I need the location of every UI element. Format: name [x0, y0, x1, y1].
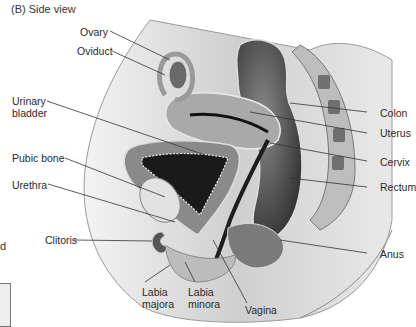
ovary	[169, 61, 187, 89]
label-urethra: Urethra	[12, 179, 47, 191]
label-uterus: Uterus	[380, 127, 411, 139]
label-labia-minora-line1: Labia	[188, 286, 214, 298]
label-colon: Colon	[380, 107, 407, 119]
label-urinary-bladder-line2: bladder	[12, 107, 47, 119]
label-vagina: Vagina	[245, 304, 277, 316]
label-labia-minora-line2: minora	[188, 298, 220, 310]
label-ovary: Ovary	[80, 26, 108, 38]
label-clitoris: Clitoris	[45, 234, 77, 246]
label-labia-majora-line2: majora	[142, 298, 174, 310]
panel-title: (B) Side view	[11, 3, 76, 15]
label-labia-majora-line1: Labia	[142, 286, 168, 298]
label-anus: Anus	[380, 248, 404, 260]
label-oviduct: Oviduct	[77, 45, 113, 57]
cropped-box-fragment	[0, 283, 11, 327]
cropped-text-fragment: d	[0, 240, 6, 252]
label-rectum: Rectum	[380, 181, 416, 193]
label-urinary-bladder-line1: Urinary	[12, 95, 46, 107]
label-pubic-bone: Pubic bone	[12, 152, 65, 164]
label-cervix: Cervix	[380, 156, 410, 168]
